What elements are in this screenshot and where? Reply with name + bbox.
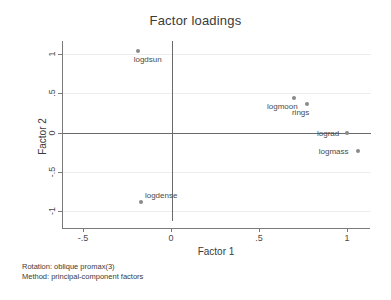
x-axis-tick xyxy=(171,228,172,232)
data-point-marker xyxy=(139,200,143,204)
x-axis-tick-label: 1 xyxy=(345,233,350,243)
data-point-marker xyxy=(292,96,296,100)
x-axis-title: Factor 1 xyxy=(62,246,370,257)
y-axis-title: Factor 2 xyxy=(37,92,48,182)
y-axis-tick-label: -.5 xyxy=(47,166,57,178)
data-point-marker xyxy=(136,49,140,53)
data-point-label: logdense xyxy=(145,191,177,200)
footnote-rotation: Rotation: oblique promax(3) xyxy=(22,262,143,272)
gridline-horizontal xyxy=(63,172,371,173)
data-point-label: lograd xyxy=(317,128,339,137)
chart-canvas: Factor loadings Factor 1 Factor 2 Rotati… xyxy=(0,0,391,300)
y-axis-tick xyxy=(58,211,62,212)
y-axis-line xyxy=(62,41,63,228)
data-point-label: logdsun xyxy=(134,55,162,64)
chart-footnote: Rotation: oblique promax(3) Method: prin… xyxy=(22,262,143,282)
gridline-horizontal xyxy=(63,54,371,55)
y-axis-tick xyxy=(58,54,62,55)
x-axis-tick-label: 0 xyxy=(169,233,174,243)
data-point-label: rings xyxy=(292,107,309,116)
y-axis-tick xyxy=(58,93,62,94)
x-axis-tick xyxy=(259,228,260,232)
chart-title: Factor loadings xyxy=(0,13,391,28)
data-point-marker xyxy=(356,149,360,153)
x-axis-tick xyxy=(83,228,84,232)
y-axis-tick xyxy=(58,133,62,134)
y-axis-tick-label: .5 xyxy=(47,87,57,99)
x-axis-tick-label: -.5 xyxy=(78,233,89,243)
y-axis-tick-label: -1 xyxy=(47,205,57,217)
footnote-method: Method: principal-component factors xyxy=(22,272,143,282)
x-axis-line xyxy=(62,228,370,229)
data-point-marker xyxy=(345,131,349,135)
x-axis-tick-label: .5 xyxy=(255,233,263,243)
y-axis-tick-label: 0 xyxy=(47,127,57,139)
x-axis-tick xyxy=(347,228,348,232)
gridline-horizontal xyxy=(63,93,371,94)
y-axis-tick-label: 1 xyxy=(47,48,57,60)
data-point-label: logmass xyxy=(319,146,349,155)
y-axis-tick xyxy=(58,172,62,173)
gridline-horizontal xyxy=(63,211,371,212)
data-point-marker xyxy=(305,102,309,106)
